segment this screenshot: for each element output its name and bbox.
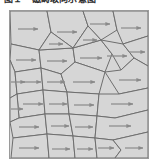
grain-structure-diagram (9, 10, 149, 159)
grain-cell (10, 94, 19, 122)
figure-caption: 图１ 磁畴取向示意图 (4, 0, 96, 4)
grain-cell-layer (10, 11, 148, 158)
grain-cell (69, 114, 97, 138)
grain-cell (15, 68, 43, 94)
grain-cell (11, 134, 49, 158)
grain-cell (45, 114, 73, 136)
grain-cell (67, 92, 99, 116)
grain-cell (47, 134, 75, 158)
figure-caption-strip: 图１ 磁畴取向示意图 (0, 0, 155, 9)
grain-structure-svg (9, 10, 149, 159)
figure-root: 图１ 磁畴取向示意图 (0, 0, 155, 164)
grain-cell (43, 90, 69, 114)
grain-cell (73, 136, 97, 158)
